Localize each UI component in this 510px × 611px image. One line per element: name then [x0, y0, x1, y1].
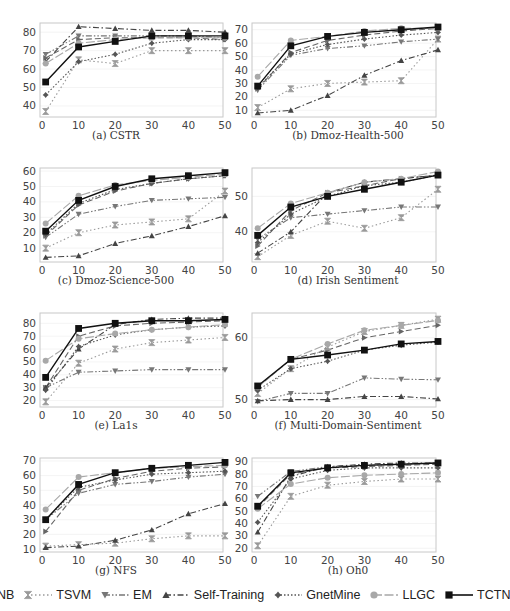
legend-item-em: EM: [100, 588, 152, 602]
series-tctn: [254, 338, 441, 389]
data-point: [254, 503, 261, 510]
y-tick-label: 20: [235, 542, 248, 554]
data-point: [398, 471, 404, 477]
series-tctn: [254, 172, 441, 239]
data-point: [42, 79, 49, 86]
data-point: [185, 337, 191, 343]
data-point: [398, 322, 404, 328]
data-point: [288, 397, 294, 402]
data-point: [42, 228, 49, 235]
series-em: [255, 376, 441, 405]
y-tick-label: 50: [23, 81, 36, 93]
data-point: [361, 347, 368, 354]
series-em: [43, 472, 228, 523]
data-point: [149, 27, 155, 32]
legend-label: MNB: [0, 588, 14, 602]
y-tick-label: 40: [235, 225, 248, 237]
data-point: [361, 327, 367, 333]
data-point: [398, 377, 404, 382]
series-em: [43, 34, 228, 58]
data-point: [435, 460, 442, 467]
line-chart: 10203040506001020304050: [0, 145, 232, 290]
data-point: [112, 320, 119, 327]
y-tick-label: 70: [23, 454, 36, 466]
y-tick-label: 70: [23, 44, 36, 56]
data-point: [185, 462, 192, 469]
data-point: [287, 42, 294, 49]
data-point: [288, 481, 294, 487]
data-point: [398, 78, 404, 84]
data-point: [324, 33, 331, 40]
chart-caption: (f) Multi-Domain-Sentiment: [232, 419, 464, 431]
y-tick-label: 10: [23, 242, 36, 254]
data-point: [112, 61, 118, 67]
data-point: [325, 358, 331, 364]
series-gnetmine: [43, 37, 228, 98]
y-tick-label: 40: [235, 517, 248, 529]
legend-item-mnb: MNB: [0, 588, 14, 602]
data-point: [255, 105, 261, 111]
series-mnb: [255, 172, 441, 249]
legend-swatch-icon: [273, 589, 303, 601]
legend-swatch-icon: [23, 589, 53, 601]
legend-item-tsvm: TSVM: [23, 588, 91, 602]
plot-area: [252, 168, 436, 262]
series-llgc: [43, 322, 228, 364]
legend-swatch-icon: [100, 589, 130, 601]
chart-caption: (a) CSTR: [0, 129, 232, 141]
series-tsvm: [255, 476, 441, 549]
series-em: [255, 37, 441, 93]
y-tick-label: 70: [23, 330, 36, 342]
data-point: [222, 316, 229, 323]
legend-swatch-icon: [161, 589, 191, 601]
series-em: [43, 367, 228, 390]
data-point: [43, 506, 49, 512]
data-point: [254, 383, 261, 390]
data-point: [398, 215, 404, 221]
data-point: [185, 224, 191, 229]
y-tick-label: 70: [235, 23, 248, 35]
plot-area: [252, 313, 436, 407]
y-tick-label: 50: [235, 505, 248, 517]
data-point: [361, 79, 367, 85]
data-point: [361, 472, 367, 478]
data-point: [324, 464, 331, 471]
data-point: [222, 33, 229, 40]
data-point: [148, 33, 155, 40]
line-chart: 2030405060708001020304050: [0, 290, 232, 435]
y-tick-label: 90: [235, 455, 248, 467]
data-point: [42, 374, 49, 381]
y-tick-label: 10: [235, 104, 248, 116]
data-point: [435, 338, 442, 345]
chart-panel-b: 1020304050607001020304050(b) Dmoz-Health…: [232, 0, 464, 145]
series-tsvm: [255, 186, 441, 259]
y-tick-label: 60: [23, 165, 36, 177]
data-point: [361, 29, 368, 36]
data-point: [325, 341, 331, 347]
chart-panel-h: 203040506070809001020304050(h) Oh0: [232, 435, 464, 580]
series-mnb: [43, 318, 228, 391]
data-point: [255, 250, 261, 255]
data-point: [398, 341, 405, 348]
series-tsvm: [43, 533, 228, 549]
data-point: [325, 93, 331, 98]
data-point: [76, 360, 82, 366]
data-point: [254, 232, 261, 239]
data-point: [76, 212, 82, 217]
data-point: [43, 399, 49, 405]
data-point: [42, 516, 49, 523]
data-point: [255, 225, 261, 231]
y-tick-label: 80: [23, 26, 36, 38]
line-chart: 1020304050607001020304050: [232, 0, 464, 145]
data-point: [324, 352, 331, 359]
legend-label: GnetMine: [306, 588, 360, 602]
series-mnb: [255, 322, 441, 390]
data-point: [148, 317, 155, 324]
data-point: [185, 317, 192, 324]
line-chart: 405060708001020304050: [0, 0, 232, 145]
legend-label: EM: [133, 588, 152, 602]
data-point: [435, 24, 442, 31]
data-point: [112, 469, 119, 476]
data-point: [362, 335, 367, 341]
data-point: [75, 325, 82, 332]
